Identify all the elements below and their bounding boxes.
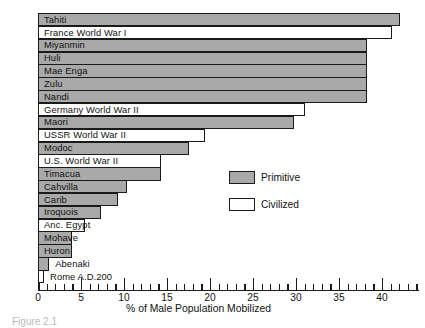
- x-tick-minor: [322, 284, 323, 290]
- bar-row: Tahiti: [38, 13, 419, 26]
- x-tick-minor: [55, 284, 56, 290]
- bar-category-label: Tahiti: [44, 15, 66, 24]
- x-tick-minor: [348, 284, 349, 290]
- bar-category-label: Germany World War II: [44, 105, 139, 114]
- x-tick-minor: [158, 284, 159, 290]
- legend-swatch-primitive-icon: [229, 171, 255, 184]
- x-tick-major: [382, 278, 383, 290]
- x-tick-minor: [236, 284, 237, 290]
- bar-row: Mohave: [38, 231, 419, 244]
- bar-row: Germany World War II: [38, 103, 419, 116]
- legend-item-civilized: Civilized: [229, 195, 300, 213]
- chart-container: TahitiFrance World War IMiyanminHuliMae …: [0, 0, 425, 328]
- x-tick-minor: [391, 284, 392, 290]
- x-tick-minor: [330, 284, 331, 290]
- x-tick-minor: [287, 284, 288, 290]
- bar-row: U.S. World War II: [38, 154, 419, 167]
- bar-row: Huli: [38, 52, 419, 65]
- x-tick-minor: [356, 284, 357, 290]
- bar[interactable]: [38, 257, 49, 270]
- x-axis-ticks: [38, 278, 419, 290]
- bar-row: Abenaki: [38, 257, 419, 270]
- bar[interactable]: [38, 52, 367, 65]
- x-tick-minor: [193, 284, 194, 290]
- bar-category-label: France World War I: [44, 28, 127, 37]
- bar-category-label: Mohave: [44, 233, 78, 242]
- bar-row: Maori: [38, 116, 419, 129]
- bar-category-label: Maori: [44, 118, 68, 127]
- bar-category-label: Anc. Egypt: [44, 221, 90, 230]
- figure-caption: Figure 2.1: [12, 316, 57, 327]
- chart-legend: Primitive Civilized: [229, 168, 300, 222]
- x-tick-minor: [141, 284, 142, 290]
- bar-row: France World War I: [38, 26, 419, 39]
- x-tick-major: [210, 278, 211, 290]
- x-tick-minor: [176, 284, 177, 290]
- bar-category-label: Miyanmin: [44, 41, 85, 50]
- bar-category-label: USSR World War II: [44, 131, 126, 140]
- bar-category-label: Cahvilla: [44, 182, 78, 191]
- x-tick-major: [296, 278, 297, 290]
- x-axis-title: % of Male Population Mobilized: [0, 303, 425, 314]
- bar-row: USSR World War II: [38, 129, 419, 142]
- x-tick-minor: [90, 284, 91, 290]
- x-tick-minor: [313, 284, 314, 290]
- bar[interactable]: [38, 39, 367, 52]
- bar-row: Mae Enga: [38, 64, 419, 77]
- bar-category-label: Nandi: [44, 92, 69, 101]
- bar-category-label: Timacua: [44, 169, 80, 178]
- bar-row: Huron: [38, 244, 419, 257]
- bar[interactable]: [38, 90, 367, 103]
- x-tick-minor: [201, 284, 202, 290]
- bar-category-label: Carib: [44, 195, 67, 204]
- x-tick-minor: [64, 284, 65, 290]
- x-tick-minor: [244, 284, 245, 290]
- bar-category-label: Abenaki: [55, 259, 90, 268]
- x-tick-major: [38, 278, 39, 290]
- x-tick-minor: [150, 284, 151, 290]
- bar-category-label: Huli: [44, 54, 61, 63]
- x-tick-major: [167, 278, 168, 290]
- x-tick-major: [253, 278, 254, 290]
- bar-row: Miyanmin: [38, 39, 419, 52]
- bar-category-label: Iroquois: [44, 208, 78, 217]
- bar[interactable]: [38, 13, 400, 26]
- bar-category-label: U.S. World War II: [44, 156, 118, 165]
- x-tick-major: [339, 278, 340, 290]
- x-axis-title-text: % of Male Population Mobilized: [126, 303, 271, 314]
- legend-label-civilized: Civilized: [261, 199, 299, 210]
- x-tick-minor: [133, 284, 134, 290]
- bar-category-label: Huron: [44, 246, 70, 255]
- x-tick-minor: [72, 284, 73, 290]
- bar-category-label: Modoc: [44, 143, 73, 152]
- legend-item-primitive: Primitive: [229, 168, 300, 186]
- legend-label-primitive: Primitive: [261, 172, 300, 183]
- x-tick-minor: [305, 284, 306, 290]
- x-tick-major: [124, 278, 125, 290]
- x-tick-minor: [399, 284, 400, 290]
- legend-swatch-civilized-icon: [229, 198, 255, 211]
- x-tick-minor: [219, 284, 220, 290]
- bar-row: Zulu: [38, 77, 419, 90]
- bar-category-label: Zulu: [44, 79, 63, 88]
- x-tick-minor: [98, 284, 99, 290]
- x-tick-minor: [227, 284, 228, 290]
- bar-category-label: Mae Enga: [44, 66, 88, 75]
- x-tick-minor: [373, 284, 374, 290]
- x-tick-minor: [262, 284, 263, 290]
- x-tick-minor: [47, 284, 48, 290]
- x-tick-minor: [115, 284, 116, 290]
- x-tick-minor: [270, 284, 271, 290]
- x-tick-minor: [279, 284, 280, 290]
- x-tick-minor: [184, 284, 185, 290]
- bar[interactable]: [38, 116, 294, 129]
- x-tick-minor: [416, 284, 417, 290]
- bar-row: Nandi: [38, 90, 419, 103]
- x-tick-major: [81, 278, 82, 290]
- x-tick-minor: [408, 284, 409, 290]
- bar[interactable]: [38, 77, 367, 90]
- bar-row: Modoc: [38, 142, 419, 155]
- x-tick-minor: [365, 284, 366, 290]
- x-tick-minor: [107, 284, 108, 290]
